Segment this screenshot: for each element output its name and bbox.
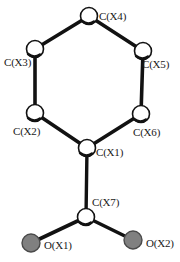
atom-label-ox1: O(X1) — [44, 240, 72, 251]
atom-cx7 — [78, 209, 95, 226]
atom-label-cx3: C(X3) — [4, 57, 31, 68]
atom-cx1 — [79, 140, 96, 157]
atom-label-cx7: C(X7) — [92, 197, 119, 208]
atom-cx3 — [27, 41, 44, 58]
atom-cx2 — [27, 105, 44, 122]
atom-label-ox2: O(X2) — [146, 238, 174, 249]
atom-label-cx2: C(X2) — [13, 126, 40, 137]
atom-label-cx5: C(X5) — [142, 59, 169, 70]
bond-cx1-cx7 — [86, 148, 87, 217]
atom-cx4 — [81, 8, 98, 25]
atom-ox2 — [124, 231, 142, 249]
atom-ox1 — [22, 234, 40, 252]
atom-label-cx1: C(X1) — [96, 147, 123, 158]
atom-label-cx4: C(X4) — [99, 11, 126, 22]
bond-cx2-cx1 — [35, 113, 87, 148]
atom-label-cx6: C(X6) — [133, 127, 160, 138]
atom-cx6 — [133, 106, 150, 123]
atom-cx5 — [135, 43, 152, 60]
molecular-structure-figure: C(X4) C(X3) C(X5) C(X2) C(X6) C(X1) C(X7… — [0, 0, 180, 262]
